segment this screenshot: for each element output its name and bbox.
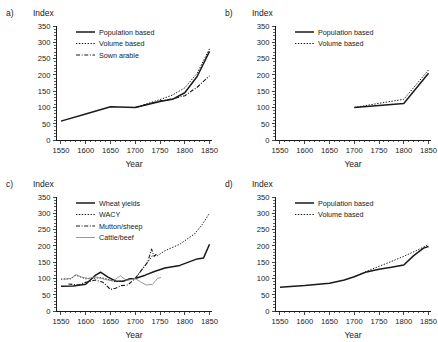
y-tick-label: 350: [38, 193, 51, 202]
x-tick-label: 1550: [271, 317, 288, 326]
y-tick-label: 150: [257, 258, 270, 267]
series-line-3: [135, 76, 209, 108]
legend-label-2: Volume based: [318, 39, 364, 48]
x-tick-label: 1700: [127, 317, 144, 326]
series-line-2: [354, 244, 428, 277]
x-tick-label: 1800: [395, 317, 412, 326]
x-tick-label: 1800: [395, 146, 412, 155]
y-tick-label: 50: [42, 120, 50, 129]
y-axis-title: Index: [33, 179, 55, 189]
chart-panel-d: d)IndexYear05010015020025030035015501600…: [219, 171, 438, 342]
y-axis-title: Index: [33, 8, 55, 18]
y-tick-label: 150: [38, 258, 51, 267]
series-line-1: [354, 73, 428, 107]
panel-letter: b): [225, 8, 233, 18]
y-tick-label: 200: [38, 71, 51, 80]
y-tick-label: 150: [257, 87, 270, 96]
x-tick-label: 1850: [201, 146, 218, 155]
legend-label-3: Sown arable: [99, 51, 139, 60]
y-tick-label: 100: [257, 103, 270, 112]
series-line-1: [280, 247, 429, 288]
y-tick-label: 350: [257, 22, 270, 31]
y-tick-label: 0: [265, 136, 269, 145]
y-tick-label: 250: [38, 225, 51, 234]
y-tick-label: 0: [46, 136, 50, 145]
chart-panel-b: b)IndexYear05010015020025030035015501600…: [219, 0, 438, 171]
x-tick-label: 1600: [77, 146, 94, 155]
y-tick-label: 100: [38, 274, 51, 283]
y-tick-label: 200: [38, 242, 51, 251]
y-tick-label: 250: [38, 54, 51, 63]
y-tick-label: 100: [38, 103, 51, 112]
y-tick-label: 50: [42, 291, 50, 300]
x-axis-title: Year: [125, 330, 142, 340]
x-axis-title: Year: [125, 159, 142, 169]
x-tick-label: 1750: [371, 146, 388, 155]
y-tick-label: 300: [257, 38, 270, 47]
panel-a-svg: a)IndexYear05010015020025030035015501600…: [0, 0, 219, 171]
x-tick-label: 1850: [420, 317, 437, 326]
x-tick-label: 1650: [321, 317, 338, 326]
y-tick-label: 200: [257, 71, 270, 80]
x-tick-label: 1650: [102, 317, 119, 326]
legend-label-1: Population based: [318, 28, 374, 37]
x-tick-label: 1550: [52, 146, 69, 155]
x-axis-title: Year: [344, 159, 361, 169]
x-tick-label: 1850: [420, 146, 437, 155]
panel-b-svg: b)IndexYear05010015020025030035015501600…: [219, 0, 438, 171]
panel-d-svg: d)IndexYear05010015020025030035015501600…: [219, 171, 438, 342]
x-tick-label: 1650: [321, 146, 338, 155]
legend-label-1: Wheat yields: [99, 199, 141, 208]
x-tick-label: 1750: [152, 146, 169, 155]
x-tick-label: 1650: [102, 146, 119, 155]
y-tick-label: 350: [257, 193, 270, 202]
figure-root: a)IndexYear05010015020025030035015501600…: [0, 0, 438, 342]
series-line-1: [61, 244, 210, 286]
x-tick-label: 1800: [176, 146, 193, 155]
panel-letter: c): [6, 179, 13, 189]
x-tick-label: 1550: [271, 146, 288, 155]
legend-label-2: Volume based: [318, 210, 364, 219]
legend-label-4: Cattle/beef: [99, 233, 134, 242]
x-tick-label: 1750: [371, 317, 388, 326]
legend-label-1: Population based: [318, 199, 374, 208]
y-tick-label: 100: [257, 274, 270, 283]
x-tick-label: 1600: [77, 317, 94, 326]
x-tick-label: 1800: [176, 317, 193, 326]
x-tick-label: 1700: [127, 146, 144, 155]
series-line-2: [354, 70, 428, 107]
y-tick-label: 0: [46, 307, 50, 316]
x-tick-label: 1600: [296, 146, 313, 155]
legend-label-2: WACY: [99, 210, 121, 219]
y-tick-label: 350: [38, 22, 51, 31]
y-axis-title: Index: [252, 179, 274, 189]
x-tick-label: 1850: [201, 317, 218, 326]
legend-label-2: Volume based: [99, 39, 145, 48]
y-tick-label: 250: [257, 54, 270, 63]
y-axis-title: Index: [252, 8, 274, 18]
legend-label-3: Mutton/sheep: [99, 222, 143, 231]
chart-panel-c: c)IndexYear05010015020025030035015501600…: [0, 171, 219, 342]
y-tick-label: 50: [261, 120, 269, 129]
x-tick-label: 1600: [296, 317, 313, 326]
y-tick-label: 200: [257, 242, 270, 251]
x-tick-label: 1750: [152, 317, 169, 326]
y-tick-label: 150: [38, 87, 51, 96]
chart-panel-a: a)IndexYear05010015020025030035015501600…: [0, 0, 219, 171]
y-tick-label: 300: [38, 209, 51, 218]
panel-letter: d): [225, 179, 233, 189]
x-tick-label: 1550: [52, 317, 69, 326]
y-tick-label: 300: [257, 209, 270, 218]
legend-label-1: Population based: [99, 28, 155, 37]
y-tick-label: 250: [257, 225, 270, 234]
panel-letter: a): [6, 8, 14, 18]
x-tick-label: 1700: [346, 317, 363, 326]
y-tick-label: 50: [261, 291, 269, 300]
y-tick-label: 300: [38, 38, 51, 47]
x-tick-label: 1700: [346, 146, 363, 155]
panel-c-svg: c)IndexYear05010015020025030035015501600…: [0, 171, 219, 342]
series-line-1: [61, 51, 210, 121]
x-axis-title: Year: [344, 330, 361, 340]
y-tick-label: 0: [265, 307, 269, 316]
